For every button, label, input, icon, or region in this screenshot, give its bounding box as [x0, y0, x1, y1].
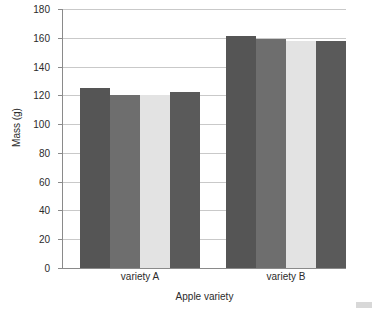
bar — [110, 95, 140, 268]
y-tick-label: 140 — [33, 61, 50, 72]
y-tick-label: 120 — [33, 90, 50, 101]
x-tick-label: variety A — [121, 271, 159, 282]
bar — [226, 36, 256, 268]
page-artifact — [356, 302, 372, 308]
y-tick-label: 40 — [39, 205, 50, 216]
bar — [316, 41, 346, 268]
y-tick-label: 180 — [33, 4, 50, 15]
y-tick-label: 160 — [33, 32, 50, 43]
bar — [80, 88, 110, 268]
bars-layer — [63, 9, 346, 268]
y-tick-label: 100 — [33, 119, 50, 130]
y-tick-label: 80 — [39, 147, 50, 158]
bar — [286, 41, 316, 268]
bar — [140, 95, 170, 268]
x-axis-title: Apple variety — [63, 291, 346, 302]
y-tick-label: 20 — [39, 234, 50, 245]
y-tick: 0 — [58, 268, 63, 269]
y-axis-title: Mass (g) — [11, 88, 22, 168]
plot-area: 020406080100120140160180 variety Avariet… — [62, 9, 346, 269]
bar — [170, 92, 200, 268]
y-tick-label: 60 — [39, 176, 50, 187]
bar — [256, 39, 286, 268]
y-tick-label: 0 — [44, 263, 50, 274]
bar-chart: Mass (g) 020406080100120140160180 variet… — [0, 0, 378, 312]
x-tick-label: variety B — [267, 271, 306, 282]
